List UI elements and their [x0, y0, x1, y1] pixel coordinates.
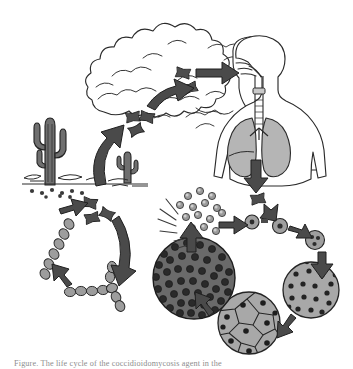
figure-caption: Figure. The life cycle of the coccidioid…: [14, 359, 344, 369]
young-spherule: [245, 215, 259, 229]
figure-caption-strip: Figure. The life cycle of the coccidioid…: [0, 359, 353, 369]
figure-root: Figure. The life cycle of the coccidioid…: [0, 0, 353, 369]
coccidioides-life-cycle-illustration: [0, 0, 353, 369]
arrow-spherule-growth: [261, 219, 268, 223]
